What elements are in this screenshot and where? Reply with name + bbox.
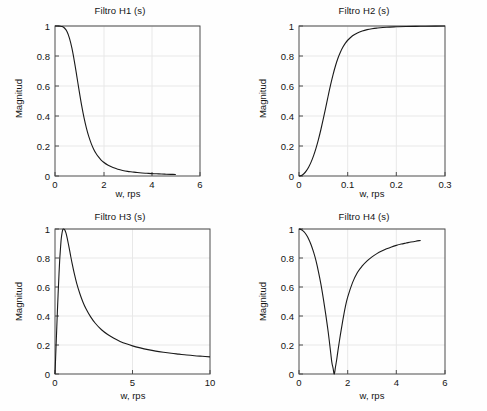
x-tick-label: 0.3 (438, 179, 451, 190)
y-tick-label: 0 (45, 171, 50, 182)
y-tick-label: 0.4 (281, 111, 294, 122)
grid-lines-h3 (55, 229, 210, 374)
plot-svg-h2: 1 0.8 0.6 0.4 0.2 0 0 0.1 0.2 0.3 (244, 0, 487, 206)
grid-lines-h1 (55, 26, 200, 176)
y-tick-label: 1 (45, 224, 50, 235)
y-tick-label: 0.8 (281, 253, 294, 264)
x-tick-labels-h1: 0 2 4 6 (52, 179, 202, 190)
y-tick-label: 0.6 (281, 282, 294, 293)
y-tick-label: 0.6 (37, 81, 50, 92)
grid-lines-h2 (299, 26, 445, 176)
panel-h3: Filtro H3 (s) Magnitud w, rps (0, 206, 244, 411)
panel-h1: Filtro H1 (s) Magnitud w, rps (0, 0, 244, 206)
y-tick-label: 0.2 (281, 141, 294, 152)
x-tick-label: 6 (442, 377, 447, 388)
x-tick-label: 10 (205, 377, 216, 388)
data-curve-h2 (299, 26, 445, 176)
y-tick-label: 0.6 (281, 81, 294, 92)
plot-area-h4: 1 0.8 0.6 0.4 0.2 0 0 2 4 6 (244, 206, 487, 411)
x-tick-label: 0 (52, 179, 57, 190)
y-tick-label: 0.4 (281, 311, 294, 322)
x-tick-label: 0 (296, 377, 301, 388)
y-tick-labels-h4: 1 0.8 0.6 0.4 0.2 0 (281, 224, 294, 380)
y-tick-labels-h1: 1 0.8 0.6 0.4 0.2 0 (37, 21, 50, 182)
y-tick-label: 0 (289, 171, 294, 182)
plot-svg-h3: 1 0.8 0.6 0.4 0.2 0 0 5 10 (0, 206, 244, 411)
y-tick-label: 0.8 (37, 253, 50, 264)
axes-box-h1 (55, 26, 200, 176)
y-tick-marks-h1 (55, 26, 59, 176)
x-tick-marks-h2 (299, 172, 445, 176)
axes-box-h4 (299, 229, 445, 374)
axes-box-h2 (299, 26, 445, 176)
x-tick-label: 0.1 (341, 179, 354, 190)
y-tick-label: 1 (289, 224, 294, 235)
y-tick-label: 0.8 (37, 51, 50, 62)
x-tick-label: 4 (149, 179, 154, 190)
x-tick-label: 0 (296, 179, 301, 190)
y-tick-label: 0 (45, 369, 50, 380)
y-tick-label: 1 (45, 21, 50, 32)
y-tick-labels-h3: 1 0.8 0.6 0.4 0.2 0 (37, 224, 50, 380)
y-tick-label: 0.8 (281, 51, 294, 62)
x-tick-label: 0.2 (390, 179, 403, 190)
y-tick-labels-h2: 1 0.8 0.6 0.4 0.2 0 (281, 21, 294, 182)
y-tick-label: 0.2 (281, 340, 294, 351)
x-tick-labels-h4: 0 2 4 6 (296, 377, 447, 388)
x-tick-label: 5 (130, 377, 135, 388)
figure-canvas: Filtro H1 (s) Magnitud w, rps (0, 0, 487, 411)
y-tick-label: 0.6 (37, 282, 50, 293)
data-curve-h4 (299, 229, 421, 374)
x-tick-label: 6 (197, 179, 202, 190)
x-tick-label: 0 (52, 377, 57, 388)
x-tick-label: 2 (101, 179, 106, 190)
y-tick-label: 1 (289, 21, 294, 32)
y-tick-label: 0 (289, 369, 294, 380)
x-tick-labels-h2: 0 0.1 0.2 0.3 (296, 179, 451, 190)
panel-h2: Filtro H2 (s) Magnitud w, rps (244, 0, 487, 206)
y-tick-label: 0.4 (37, 311, 50, 322)
x-tick-label: 2 (345, 377, 350, 388)
grid-lines-h4 (299, 229, 445, 374)
plot-svg-h4: 1 0.8 0.6 0.4 0.2 0 0 2 4 6 (244, 206, 487, 411)
plot-area-h3: 1 0.8 0.6 0.4 0.2 0 0 5 10 (0, 206, 244, 411)
panel-h4: Filtro H4 (s) Magnitud w, rps (244, 206, 487, 411)
data-curve-h1 (55, 26, 176, 175)
y-tick-label: 0.2 (37, 340, 50, 351)
plot-area-h2: 1 0.8 0.6 0.4 0.2 0 0 0.1 0.2 0.3 (244, 0, 487, 206)
plot-area-h1: 1 0.8 0.6 0.4 0.2 0 0 2 4 6 (0, 0, 244, 206)
x-tick-marks-h1 (55, 172, 200, 176)
y-tick-marks-h4 (299, 229, 303, 374)
x-tick-label: 4 (394, 377, 399, 388)
y-tick-marks-h2 (299, 26, 303, 176)
x-tick-marks-h3 (55, 370, 210, 374)
y-tick-label: 0.4 (37, 111, 50, 122)
plot-svg-h1: 1 0.8 0.6 0.4 0.2 0 0 2 4 6 (0, 0, 244, 206)
y-tick-label: 0.2 (37, 141, 50, 152)
x-tick-labels-h3: 0 5 10 (52, 377, 215, 388)
x-tick-marks-h4 (299, 370, 445, 374)
